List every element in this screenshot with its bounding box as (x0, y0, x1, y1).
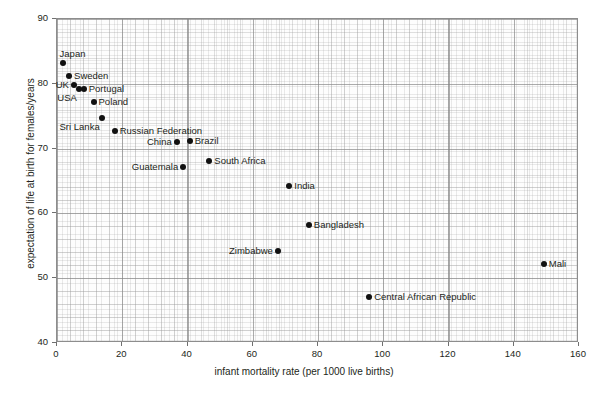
data-point-label: Zimbabwe (229, 246, 273, 256)
y-tick-mark (52, 342, 56, 343)
x-tick-label: 120 (440, 349, 456, 359)
x-tick-label: 0 (53, 349, 58, 359)
data-point-label: Sri Lanka (60, 122, 100, 132)
data-point-label: Bangladesh (314, 220, 364, 230)
x-tick-mark (187, 342, 188, 346)
data-point-label: Sweden (74, 71, 108, 81)
data-point-label: China (147, 137, 172, 147)
data-point-label: Poland (99, 97, 129, 107)
data-point-label: Japan (60, 49, 86, 59)
y-tick-mark (52, 83, 56, 84)
y-tick-label: 40 (37, 337, 48, 347)
x-tick-label: 100 (374, 349, 390, 359)
x-tick-mark (56, 342, 57, 346)
x-tick-label: 140 (505, 349, 521, 359)
x-tick-label: 80 (312, 349, 323, 359)
y-tick-mark (52, 277, 56, 278)
data-point-label: South Africa (214, 156, 265, 166)
x-tick-label: 40 (181, 349, 192, 359)
x-tick-mark (121, 342, 122, 346)
data-point-label: UK (56, 80, 69, 90)
x-tick-mark (252, 342, 253, 346)
x-tick-mark (382, 342, 383, 346)
y-tick-mark (52, 18, 56, 19)
y-axis-title: expectation of life at birth for females… (25, 24, 36, 324)
data-point-label: India (294, 181, 315, 191)
x-tick-mark (448, 342, 449, 346)
data-point-label: Mali (549, 259, 566, 269)
y-tick-mark (52, 212, 56, 213)
x-tick-mark (317, 342, 318, 346)
y-tick-mark (52, 148, 56, 149)
data-point-label: Russian Federation (120, 126, 202, 136)
x-tick-mark (578, 342, 579, 346)
scatter-plot-figure: JapanSwedenUKUSAPortugalPolandSri LankaR… (0, 0, 608, 393)
y-tick-label: 80 (37, 78, 48, 88)
y-tick-label: 60 (37, 207, 48, 217)
y-tick-label: 70 (37, 143, 48, 153)
plot-area (56, 18, 578, 342)
x-tick-label: 60 (246, 349, 257, 359)
data-point-label: Brazil (195, 136, 219, 146)
data-point (91, 99, 97, 105)
data-point-label: USA (57, 93, 77, 103)
y-tick-label: 50 (37, 272, 48, 282)
x-tick-mark (513, 342, 514, 346)
x-tick-label: 20 (116, 349, 127, 359)
data-point (81, 86, 87, 92)
y-tick-label: 90 (37, 13, 48, 23)
data-point (206, 158, 212, 164)
x-axis-title: infant mortality rate (per 1000 live bir… (0, 366, 608, 377)
data-point (541, 261, 547, 267)
x-tick-label: 160 (570, 349, 586, 359)
data-point-label: Central African Republic (374, 292, 476, 302)
data-point (60, 60, 66, 66)
data-point (366, 294, 372, 300)
data-point (187, 138, 193, 144)
data-point-label: Guatemala (132, 162, 178, 172)
data-point-label: Portugal (89, 84, 124, 94)
